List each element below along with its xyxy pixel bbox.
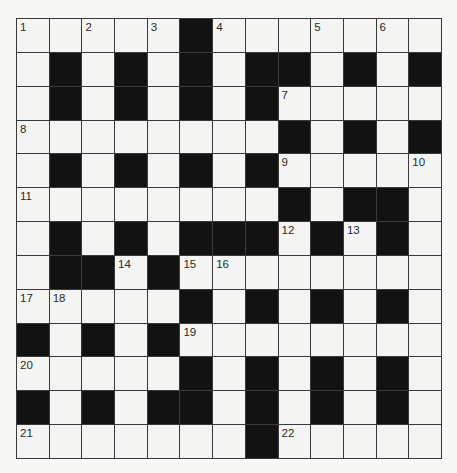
answer-cell[interactable] — [213, 324, 245, 357]
answer-cell[interactable] — [213, 53, 245, 86]
answer-cell[interactable] — [311, 121, 343, 154]
answer-cell[interactable] — [148, 425, 180, 458]
answer-cell[interactable] — [377, 256, 409, 289]
answer-cell[interactable] — [311, 425, 343, 458]
answer-cell[interactable] — [50, 391, 82, 424]
answer-cell[interactable] — [344, 357, 376, 390]
answer-cell[interactable] — [377, 154, 409, 187]
answer-cell[interactable]: 8 — [17, 121, 49, 154]
answer-cell[interactable] — [82, 222, 114, 255]
answer-cell[interactable] — [246, 188, 278, 221]
answer-cell[interactable] — [246, 324, 278, 357]
answer-cell[interactable] — [311, 87, 343, 120]
answer-cell[interactable] — [50, 19, 82, 52]
answer-cell[interactable] — [409, 222, 441, 255]
answer-cell[interactable] — [148, 154, 180, 187]
answer-cell[interactable] — [148, 188, 180, 221]
answer-cell[interactable] — [409, 188, 441, 221]
answer-cell[interactable] — [409, 87, 441, 120]
answer-cell[interactable] — [213, 391, 245, 424]
answer-cell[interactable] — [82, 121, 114, 154]
answer-cell[interactable] — [344, 290, 376, 323]
answer-cell[interactable] — [409, 290, 441, 323]
answer-cell[interactable] — [409, 19, 441, 52]
answer-cell[interactable] — [148, 290, 180, 323]
answer-cell[interactable] — [213, 425, 245, 458]
answer-cell[interactable]: 18 — [50, 290, 82, 323]
answer-cell[interactable] — [50, 324, 82, 357]
answer-cell[interactable] — [311, 154, 343, 187]
answer-cell[interactable] — [82, 53, 114, 86]
answer-cell[interactable] — [115, 188, 147, 221]
answer-cell[interactable] — [115, 121, 147, 154]
answer-cell[interactable] — [17, 87, 49, 120]
answer-cell[interactable] — [311, 256, 343, 289]
answer-cell[interactable] — [82, 290, 114, 323]
answer-cell[interactable] — [377, 324, 409, 357]
answer-cell[interactable] — [409, 357, 441, 390]
answer-cell[interactable]: 4 — [213, 19, 245, 52]
answer-cell[interactable] — [344, 19, 376, 52]
answer-cell[interactable] — [409, 324, 441, 357]
answer-cell[interactable]: 10 — [409, 154, 441, 187]
answer-cell[interactable] — [17, 53, 49, 86]
answer-cell[interactable] — [279, 256, 311, 289]
answer-cell[interactable]: 13 — [344, 222, 376, 255]
answer-cell[interactable] — [50, 188, 82, 221]
answer-cell[interactable] — [180, 188, 212, 221]
answer-cell[interactable] — [17, 154, 49, 187]
answer-cell[interactable] — [17, 256, 49, 289]
answer-cell[interactable]: 17 — [17, 290, 49, 323]
answer-cell[interactable] — [213, 290, 245, 323]
answer-cell[interactable]: 22 — [279, 425, 311, 458]
answer-cell[interactable]: 6 — [377, 19, 409, 52]
answer-cell[interactable]: 9 — [279, 154, 311, 187]
answer-cell[interactable] — [148, 87, 180, 120]
answer-cell[interactable] — [115, 19, 147, 52]
answer-cell[interactable]: 2 — [82, 19, 114, 52]
answer-cell[interactable] — [311, 53, 343, 86]
answer-cell[interactable] — [344, 391, 376, 424]
answer-cell[interactable] — [279, 357, 311, 390]
answer-cell[interactable] — [148, 121, 180, 154]
answer-cell[interactable] — [82, 357, 114, 390]
answer-cell[interactable]: 3 — [148, 19, 180, 52]
answer-cell[interactable]: 19 — [180, 324, 212, 357]
answer-cell[interactable] — [82, 87, 114, 120]
answer-cell[interactable] — [115, 425, 147, 458]
answer-cell[interactable] — [213, 188, 245, 221]
answer-cell[interactable]: 16 — [213, 256, 245, 289]
answer-cell[interactable] — [377, 121, 409, 154]
answer-cell[interactable] — [50, 121, 82, 154]
answer-cell[interactable] — [311, 324, 343, 357]
answer-cell[interactable] — [148, 53, 180, 86]
answer-cell[interactable] — [115, 324, 147, 357]
answer-cell[interactable] — [148, 357, 180, 390]
answer-cell[interactable] — [213, 121, 245, 154]
answer-cell[interactable] — [279, 19, 311, 52]
answer-cell[interactable] — [213, 87, 245, 120]
answer-cell[interactable] — [115, 357, 147, 390]
answer-cell[interactable]: 21 — [17, 425, 49, 458]
answer-cell[interactable] — [279, 391, 311, 424]
answer-cell[interactable] — [50, 425, 82, 458]
answer-cell[interactable]: 11 — [17, 188, 49, 221]
answer-cell[interactable] — [409, 425, 441, 458]
answer-cell[interactable] — [409, 391, 441, 424]
answer-cell[interactable]: 1 — [17, 19, 49, 52]
answer-cell[interactable] — [246, 121, 278, 154]
answer-cell[interactable] — [246, 256, 278, 289]
answer-cell[interactable] — [377, 425, 409, 458]
answer-cell[interactable]: 14 — [115, 256, 147, 289]
answer-cell[interactable] — [344, 256, 376, 289]
answer-cell[interactable]: 7 — [279, 87, 311, 120]
answer-cell[interactable] — [180, 121, 212, 154]
answer-cell[interactable]: 20 — [17, 357, 49, 390]
answer-cell[interactable]: 15 — [180, 256, 212, 289]
answer-cell[interactable] — [344, 87, 376, 120]
answer-cell[interactable]: 12 — [279, 222, 311, 255]
answer-cell[interactable] — [311, 188, 343, 221]
answer-cell[interactable] — [82, 154, 114, 187]
answer-cell[interactable] — [17, 222, 49, 255]
answer-cell[interactable] — [213, 154, 245, 187]
